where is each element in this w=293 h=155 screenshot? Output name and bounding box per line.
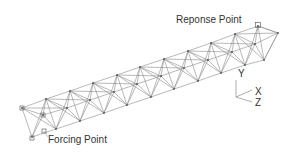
axis-x-label: X: [255, 87, 262, 97]
truss-diagram: [0, 0, 293, 155]
forcing-point-label: Forcing Point: [48, 135, 107, 145]
response-point-label: Reponse Point: [176, 15, 242, 25]
axis-y-label: Y: [238, 69, 245, 79]
axis-z-label: Z: [255, 98, 261, 108]
